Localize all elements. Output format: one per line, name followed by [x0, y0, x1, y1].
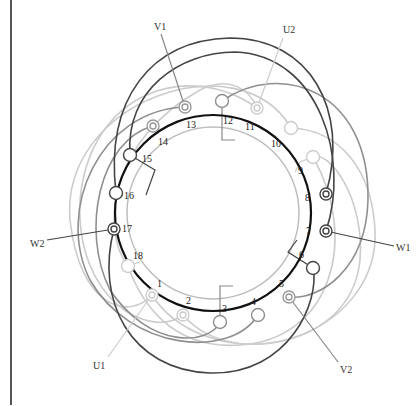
lead-line-v1	[161, 34, 185, 107]
slot-label-1: 1	[157, 278, 162, 289]
slot-label-8: 8	[305, 192, 310, 203]
terminal-12-icon	[216, 95, 229, 108]
slot-label-18: 18	[133, 250, 143, 261]
lead-label-u2: U2	[283, 24, 295, 35]
terminal-9-icon	[307, 151, 320, 164]
slot-label-10: 10	[271, 138, 281, 149]
terminal-15-icon	[124, 149, 137, 162]
slot-label-7: 7	[306, 225, 311, 236]
lead-label-w1: W1	[396, 242, 410, 253]
slot-label-9: 9	[298, 165, 303, 176]
slot-label-11: 11	[245, 121, 255, 132]
slot-label-12: 12	[223, 115, 233, 126]
arc-13-4	[78, 107, 258, 342]
slot-label-16: 16	[124, 190, 134, 201]
slot-label-4: 4	[251, 296, 256, 307]
terminal-4-icon	[252, 309, 265, 322]
lead-label-u1: U1	[93, 360, 105, 371]
terminal-6-icon	[307, 262, 320, 275]
slot-label-14: 14	[158, 136, 168, 147]
slot-label-15: 15	[142, 153, 152, 164]
lead-label-v1: V1	[154, 21, 166, 32]
slot-label-13: 13	[186, 119, 196, 130]
slot-label-17: 17	[122, 223, 132, 234]
slot-label-5: 5	[279, 278, 284, 289]
lead-label-v2: V2	[340, 364, 352, 375]
inner-ring	[127, 127, 299, 299]
slot-label-3: 3	[222, 303, 227, 314]
terminal-10-icon	[285, 122, 298, 135]
slot-label-2: 2	[186, 295, 191, 306]
inner-ring-circle	[127, 127, 299, 299]
winding-diagram: 1 2 3 4 5 6 7 8 9 10 11 12 13 14 15 16 1…	[0, 0, 419, 406]
slot-label-6: 6	[299, 249, 304, 260]
lead-line-u2	[257, 38, 283, 108]
terminal-16-icon	[110, 187, 123, 200]
terminal-18-icon	[122, 260, 135, 273]
terminal-3-icon	[214, 316, 227, 329]
lead-label-w2: W2	[30, 238, 44, 249]
